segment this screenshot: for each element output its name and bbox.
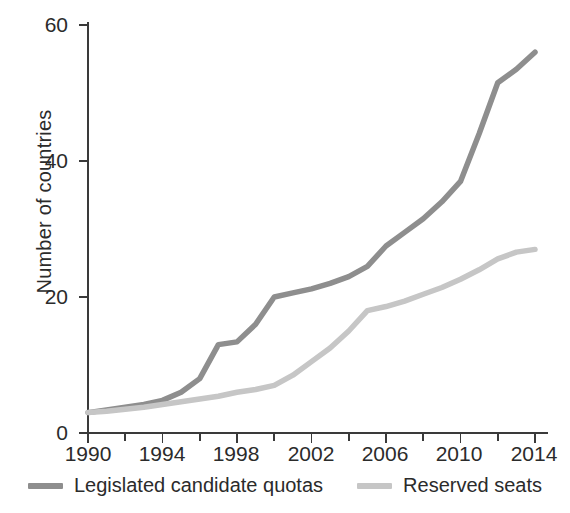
legend-label-reserved-seats: Reserved seats bbox=[403, 474, 542, 497]
chart-legend: Legislated candidate quotas Reserved sea… bbox=[0, 474, 570, 497]
y-axis-tick-label-40: 40 bbox=[22, 149, 68, 173]
legend-label-legislated-candidate-quotas: Legislated candidate quotas bbox=[74, 474, 323, 497]
y-axis-tick-label-60: 60 bbox=[22, 13, 68, 37]
y-axis-ticks bbox=[79, 25, 88, 433]
x-axis-tick-label-1998: 1998 bbox=[201, 442, 271, 466]
x-axis-tick-label-2006: 2006 bbox=[350, 442, 420, 466]
series-line-reserved-seats bbox=[88, 249, 535, 412]
line-chart: Number of countries 60 40 20 0 1990 1994… bbox=[0, 0, 570, 513]
x-axis-tick-label-2002: 2002 bbox=[276, 442, 346, 466]
legend-swatch-reserved-seats bbox=[357, 483, 392, 489]
x-axis-tick-label-1990: 1990 bbox=[53, 442, 123, 466]
x-axis-tick-label-1994: 1994 bbox=[127, 442, 197, 466]
legend-swatch-legislated-candidate-quotas bbox=[28, 483, 63, 489]
legend-item-reserved-seats: Reserved seats bbox=[357, 474, 542, 497]
x-axis-tick-label-2014: 2014 bbox=[499, 442, 569, 466]
legend-item-legislated-candidate-quotas: Legislated candidate quotas bbox=[28, 474, 323, 497]
x-axis-tick-label-2010: 2010 bbox=[424, 442, 494, 466]
plot-area bbox=[0, 0, 570, 470]
y-axis-tick-label-20: 20 bbox=[22, 285, 68, 309]
